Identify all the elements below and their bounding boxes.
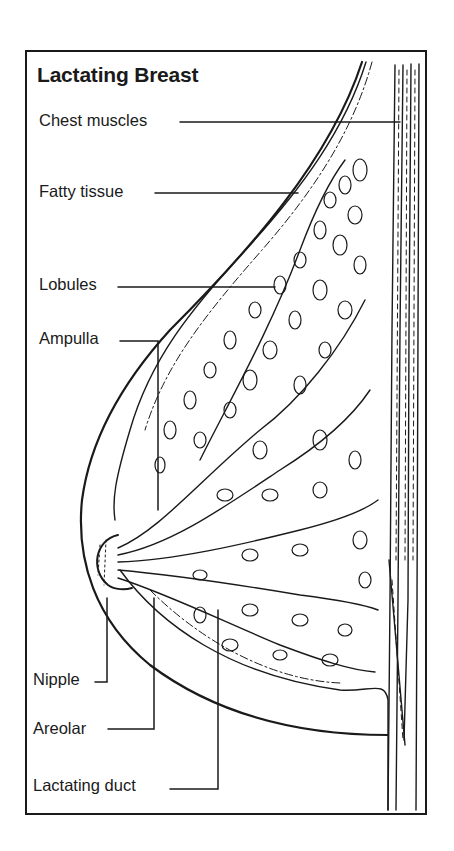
leader-lines [95, 122, 400, 789]
gland-boundary [114, 62, 366, 520]
skin-outline [81, 62, 388, 735]
breast-anatomy-illustration [0, 0, 454, 851]
lobules-drawing [155, 159, 371, 666]
leader-nipple [95, 598, 107, 682]
lactating-ducts [118, 160, 378, 672]
chest-muscles-drawing [388, 64, 419, 810]
leader-lactating-duct [170, 610, 218, 789]
